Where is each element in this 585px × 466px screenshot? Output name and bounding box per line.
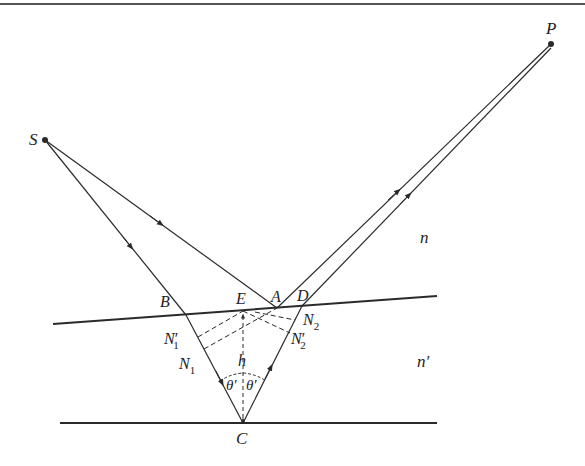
label-n2: N2 <box>302 311 319 332</box>
ray-a-to-p <box>277 44 551 308</box>
ray-c-to-d <box>243 306 302 423</box>
dashed-n1p-to-e <box>198 311 243 337</box>
label-n1-prime: N′1 <box>163 330 179 351</box>
ray-d-to-p <box>302 48 551 306</box>
label-theta-left: θ′ <box>226 377 237 393</box>
point-p <box>548 41 554 47</box>
arrow-s-to-b <box>123 237 131 247</box>
arrow-s-to-a <box>150 216 161 224</box>
arrow-d-to-p <box>400 195 409 204</box>
label-h: h <box>238 352 246 369</box>
label-a: A <box>270 288 281 305</box>
label-d: D <box>296 287 309 304</box>
arrow-b-to-c <box>216 371 222 383</box>
label-theta-right: θ′ <box>246 377 257 393</box>
label-b: B <box>160 293 170 310</box>
label-e: E <box>235 290 246 307</box>
label-medium-n-prime: n′ <box>417 352 430 371</box>
label-n2-prime: N′2 <box>290 330 306 351</box>
label-medium-n: n <box>420 228 429 247</box>
label-s: S <box>29 130 38 149</box>
dashed-a-to-n2 <box>255 312 295 320</box>
point-s <box>42 137 48 143</box>
arrow-c-to-d <box>265 367 271 379</box>
arrow-a-to-p <box>388 191 398 200</box>
label-c: C <box>236 429 248 448</box>
label-p: P <box>545 19 556 38</box>
label-n1: N1 <box>178 355 195 376</box>
thin-film-diagram: S P B E A D C N′1 N1 N2 N′2 h θ′ θ′ n n′ <box>0 0 585 466</box>
